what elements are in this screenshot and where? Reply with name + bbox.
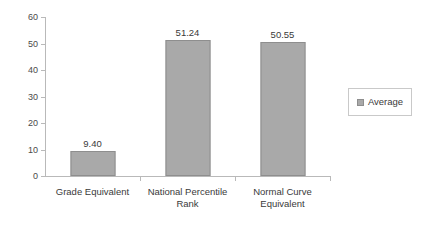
x-axis-label-line: Rank [140,198,235,210]
bar-slot-national-percentile-rank: 51.24 [140,17,235,176]
y-tick-label-30: 30 [28,92,38,101]
x-axis-line [45,176,331,177]
legend-swatch-icon [357,99,364,106]
x-tick-boundary-1 [140,176,141,181]
x-axis-label-grade-equivalent: Grade Equivalent [45,186,140,198]
y-tick-label-10: 10 [28,145,38,154]
x-axis-label-normal-curve-equivalent: Normal Curve Equivalent [235,186,330,209]
x-axis-label-line: Grade Equivalent [45,186,140,198]
legend-label-average: Average [368,97,403,107]
x-axis-label-line: National Percentile [140,186,235,198]
y-tick-label-60: 60 [28,13,38,22]
bar-value-normal-curve-equivalent: 50.55 [271,30,295,40]
y-tick-label-0: 0 [33,172,38,181]
bar-chart: 0 10 20 30 40 50 60 [0,0,421,226]
x-axis-label-national-percentile-rank: National Percentile Rank [140,186,235,209]
y-tick-label-50: 50 [28,39,38,48]
x-tick-boundary-3 [330,176,331,181]
bar-slot-grade-equivalent: 9.40 [45,17,140,176]
x-tick-boundary-2 [235,176,236,181]
bar-value-national-percentile-rank: 51.24 [176,28,200,38]
bar-normal-curve-equivalent[interactable] [260,42,305,176]
y-tick-label-20: 20 [28,119,38,128]
bar-grade-equivalent[interactable] [70,151,115,176]
bar-slot-normal-curve-equivalent: 50.55 [235,17,330,176]
x-axis-label-line: Normal Curve [235,186,330,198]
bar-national-percentile-rank[interactable] [165,40,210,176]
plot-area: 0 10 20 30 40 50 60 [45,17,331,176]
x-axis-label-line: Equivalent [235,198,330,210]
y-tick-label-40: 40 [28,66,38,75]
legend: Average [348,88,412,116]
bar-value-grade-equivalent: 9.40 [83,139,102,149]
